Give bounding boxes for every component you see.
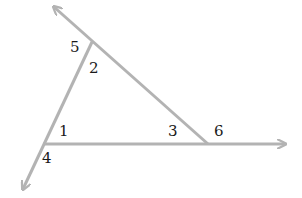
angle-label-6: 6 — [214, 122, 224, 140]
ray-lower-left — [23, 42, 92, 189]
angle-label-3: 3 — [168, 122, 178, 140]
triangle-angle-diagram: 5 2 1 4 3 6 — [0, 0, 302, 198]
angle-label-5: 5 — [70, 38, 80, 56]
angle-label-1: 1 — [59, 122, 69, 140]
angle-label-2: 2 — [89, 59, 99, 77]
angle-label-4: 4 — [42, 149, 52, 167]
